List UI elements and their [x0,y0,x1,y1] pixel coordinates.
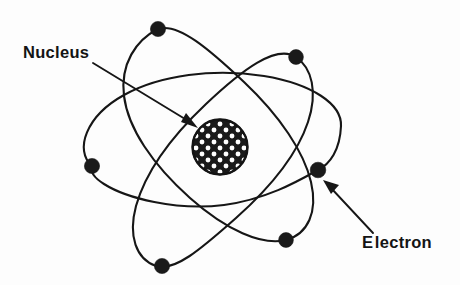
electron-label-lead: E [362,233,375,251]
electron-leader [323,180,373,233]
nucleus [192,119,247,174]
electron-right [310,162,326,178]
electron-bottom-left [154,258,169,273]
electron-top [150,21,165,36]
electron-bottom-right [279,233,294,248]
nucleus-label: Nucleus [23,44,89,61]
electron-label-rest: lectron [375,233,432,251]
atom-diagram: Nucleus Electron [0,0,460,285]
nucleus-leader [93,63,198,128]
electron-left [84,158,99,173]
electron-upper-right [289,50,304,65]
nucleus-label-text: Nucleus [23,43,89,61]
nucleus-leader-line [93,63,190,122]
electron-arrow-head [323,180,339,194]
electron-label: Electron [362,234,432,251]
electron-leader-line [331,188,373,233]
